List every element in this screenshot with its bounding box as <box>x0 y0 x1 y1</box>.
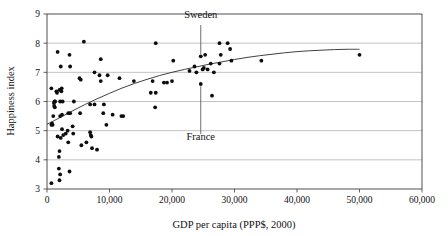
data-point <box>68 170 72 174</box>
data-point <box>194 70 198 74</box>
data-point <box>88 130 92 134</box>
x-tick-label-0: 0 <box>45 195 50 205</box>
y-tick-label-4: 4 <box>35 155 40 165</box>
data-point <box>104 123 108 127</box>
x-axis-tickmarks <box>47 189 422 193</box>
data-point <box>59 65 63 69</box>
y-tick-label-5: 5 <box>35 126 40 136</box>
data-point <box>188 69 192 73</box>
data-point <box>259 59 263 63</box>
data-point <box>60 113 64 117</box>
data-point <box>202 66 206 70</box>
annotation-label-france: France <box>186 131 215 142</box>
y-tick-label-7: 7 <box>35 68 40 78</box>
data-point <box>57 155 61 159</box>
y-axis-tickmarks <box>44 14 48 189</box>
data-point <box>193 65 197 69</box>
data-point <box>206 68 210 72</box>
data-point <box>154 91 158 95</box>
y-tick-label-8: 8 <box>35 39 40 49</box>
data-point <box>90 146 94 150</box>
data-point <box>119 114 123 118</box>
data-point <box>68 65 72 69</box>
x-tick-label-40000: 40,000 <box>284 195 310 205</box>
data-point <box>226 41 230 45</box>
data-point <box>53 105 57 109</box>
data-point <box>218 62 222 66</box>
annotations-group: SwedenFrance <box>184 9 218 142</box>
data-point <box>153 105 157 109</box>
happiness-gdp-scatter-figure: 010,00020,00030,00040,00050,00060,000 34… <box>0 0 448 236</box>
data-point <box>219 53 223 57</box>
data-point <box>95 148 99 152</box>
gridlines <box>47 43 422 160</box>
data-point <box>99 79 103 83</box>
data-point <box>93 70 97 74</box>
data-point <box>106 73 110 77</box>
data-point <box>199 54 203 58</box>
data-point <box>66 140 70 144</box>
x-tick-label-20000: 20,000 <box>159 195 185 205</box>
datapoints-group <box>49 40 361 185</box>
data-point <box>59 136 63 140</box>
data-point <box>162 81 166 85</box>
data-point <box>66 129 70 133</box>
data-point <box>68 53 72 57</box>
data-point <box>98 73 102 77</box>
data-point <box>171 59 175 63</box>
y-axis-title: Happiness index <box>5 65 16 135</box>
x-axis-title: GDP per capita (PPP$, 2000) <box>173 219 296 231</box>
x-tick-label-10000: 10,000 <box>96 195 122 205</box>
y-tick-label-3: 3 <box>35 184 40 194</box>
data-point <box>118 76 122 80</box>
data-point <box>149 91 153 95</box>
annotation-label-sweden: Sweden <box>184 9 218 20</box>
data-point <box>60 86 64 90</box>
y-tick-label-6: 6 <box>35 97 40 107</box>
x-tick-label-60000: 60,000 <box>409 195 435 205</box>
data-point <box>53 100 57 104</box>
data-point <box>49 86 53 90</box>
chart-canvas: 010,00020,00030,00040,00050,00060,000 34… <box>0 0 448 236</box>
trendline-group <box>47 49 360 124</box>
y-tick-label-9: 9 <box>35 9 40 19</box>
data-point <box>199 82 203 86</box>
x-tick-label-50000: 50,000 <box>346 195 372 205</box>
data-point <box>154 41 158 45</box>
data-point <box>82 40 86 44</box>
data-point <box>102 103 106 107</box>
data-point <box>210 94 214 98</box>
y-axis-tick-labels: 3456789 <box>35 9 40 194</box>
data-point <box>56 50 60 54</box>
data-point <box>170 79 174 83</box>
data-point <box>228 47 232 51</box>
data-point <box>60 127 64 131</box>
data-point <box>203 53 207 57</box>
data-point <box>93 103 97 107</box>
data-point <box>51 123 55 127</box>
trendline <box>47 49 360 124</box>
data-point <box>218 41 222 45</box>
data-point <box>68 111 72 115</box>
data-point <box>229 59 233 63</box>
x-tick-label-30000: 30,000 <box>221 195 247 205</box>
data-point <box>84 140 88 144</box>
data-point <box>57 167 61 171</box>
data-point <box>79 143 83 147</box>
data-point <box>358 53 362 57</box>
data-point <box>78 111 82 115</box>
data-point <box>209 62 213 66</box>
data-point <box>79 78 83 82</box>
data-point <box>89 135 93 139</box>
x-axis-tick-labels: 010,00020,00030,00040,00050,00060,000 <box>45 195 436 205</box>
data-point <box>58 178 62 182</box>
data-point <box>58 173 62 177</box>
data-point <box>111 113 115 117</box>
data-point <box>132 79 136 83</box>
data-point <box>72 100 76 104</box>
data-point <box>71 124 75 128</box>
data-point <box>99 57 103 61</box>
data-point <box>58 149 62 153</box>
data-point <box>71 132 75 136</box>
data-point <box>101 111 105 115</box>
